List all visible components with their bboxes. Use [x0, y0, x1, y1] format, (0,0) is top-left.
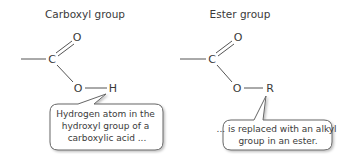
ester-single-bond: [217, 65, 232, 82]
carboxyl-hydrogen: H: [109, 82, 117, 95]
carboxyl-single-bond: [57, 65, 73, 82]
ester-group: Ester group C O O R ... is replaced with…: [180, 8, 339, 150]
ester-diagram: Carboxyl group C O O H Hydrogen atom in …: [0, 0, 342, 154]
ester-oxygen-double: O: [234, 31, 243, 44]
ester-oxygen-single: O: [233, 82, 242, 95]
carboxyl-oxygen-double: O: [73, 31, 82, 44]
carboxyl-group: Carboxyl group C O O H Hydrogen atom in …: [21, 8, 163, 150]
ester-carbon: C: [208, 53, 216, 66]
ester-r-group: R: [266, 82, 274, 95]
carboxyl-title: Carboxyl group: [45, 8, 125, 20]
carboxyl-oxygen-single: O: [74, 82, 83, 95]
ester-title: Ester group: [210, 8, 271, 20]
carboxyl-carbon: C: [48, 53, 56, 66]
carboxyl-callout-text: Hydrogen atom in the hydroxyl group of a…: [56, 109, 158, 143]
